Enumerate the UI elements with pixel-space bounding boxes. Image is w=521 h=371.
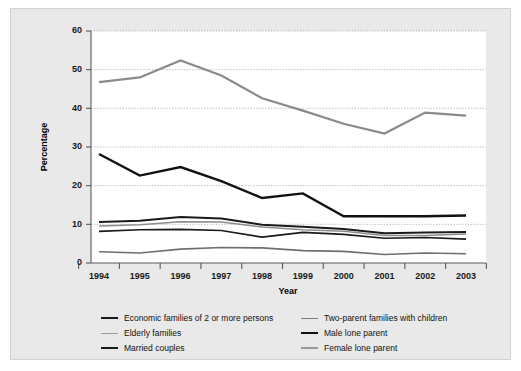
series-line: [99, 248, 466, 255]
legend-item-label: Economic families of 2 or more persons: [124, 314, 273, 323]
figure-panel: 0102030405060 19941995199619971998199920…: [10, 8, 511, 360]
y-tick-label: 50: [72, 64, 82, 74]
legend-column-left: Economic families of 2 or more personsEl…: [101, 311, 301, 356]
data-series: [99, 60, 466, 254]
legend-item-label: Female lone parent: [324, 344, 397, 353]
x-tick-label: 2002: [415, 271, 435, 281]
chart-legend: Economic families of 2 or more personsEl…: [101, 311, 491, 355]
series-line: [99, 60, 466, 133]
y-tick-label: 0: [77, 257, 82, 267]
legend-line-swatch-icon: [301, 332, 318, 334]
series-line: [99, 229, 466, 239]
x-tick-label: 1998: [252, 271, 272, 281]
y-tick-label: 30: [72, 141, 82, 151]
series-line: [99, 217, 466, 233]
legend-line-swatch-icon: [101, 317, 118, 319]
x-tick-label: 2001: [374, 271, 394, 281]
legend-item[interactable]: Elderly families: [101, 326, 301, 340]
legend-item-label: Married couples: [124, 344, 184, 353]
x-axis-title: Year: [278, 286, 298, 296]
x-tick-label: 1999: [293, 271, 313, 281]
legend-item[interactable]: Married couples: [101, 341, 301, 355]
y-axis-tick-labels: 0102030405060: [72, 25, 82, 267]
x-tick-label: 1996: [171, 271, 191, 281]
legend-item[interactable]: Two-parent families with children: [301, 311, 491, 325]
line-chart: 0102030405060 19941995199619971998199920…: [11, 9, 512, 361]
legend-item[interactable]: Male lone parent: [301, 326, 491, 340]
legend-item[interactable]: Economic families of 2 or more persons: [101, 311, 301, 325]
legend-line-swatch-icon: [301, 318, 318, 319]
legend-item-label: Male lone parent: [324, 329, 387, 338]
legend-line-swatch-icon: [301, 347, 318, 349]
x-tick-label: 1997: [211, 271, 231, 281]
x-tick-label: 2000: [334, 271, 354, 281]
legend-line-swatch-icon: [101, 347, 118, 349]
legend-column-right: Two-parent families with childrenMale lo…: [301, 311, 491, 356]
y-tick-label: 20: [72, 180, 82, 190]
y-axis-title: Percentage: [39, 123, 49, 172]
y-tick-label: 60: [72, 25, 82, 35]
legend-line-swatch-icon: [101, 333, 118, 334]
legend-item-label: Elderly families: [124, 329, 181, 338]
y-tick-label: 10: [72, 219, 82, 229]
x-tick-label: 2003: [456, 271, 476, 281]
y-tick-label: 40: [72, 103, 82, 113]
legend-item[interactable]: Female lone parent: [301, 341, 491, 355]
x-tick-label: 1994: [89, 271, 109, 281]
chart-screenshot: 0102030405060 19941995199619971998199920…: [0, 0, 521, 371]
x-tick-label: 1995: [130, 271, 150, 281]
x-axis-tick-labels: 1994199519961997199819992000200120022003: [89, 271, 476, 281]
series-line: [99, 154, 466, 216]
legend-item-label: Two-parent families with children: [324, 314, 447, 323]
